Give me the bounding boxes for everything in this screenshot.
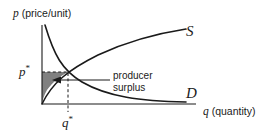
price-axis-label: p (price/unit) [13,8,71,20]
equilibrium-price-star: * [26,63,31,73]
quantity-axis-unit: (quantity) [212,105,256,117]
price-axis-variable: p [13,7,19,19]
producer-surplus-annotation-line1: producer [113,70,152,82]
supply-demand-figure: p (price/unit) q (quantity) S D p* q* pr… [0,0,258,139]
equilibrium-quantity-label: q* [62,116,73,129]
price-axis-unit: (price/unit) [22,7,72,19]
equilibrium-price-label: p* [19,65,30,78]
producer-surplus-annotation: producer surplus [113,70,152,93]
quantity-axis-label: q (quantity) [203,106,255,118]
equilibrium-quantity-star: * [69,114,74,124]
demand-curve-label: D [186,86,197,101]
producer-surplus-annotation-line2: surplus [113,82,152,94]
supply-curve-label: S [186,24,194,39]
quantity-axis-variable: q [203,105,209,117]
